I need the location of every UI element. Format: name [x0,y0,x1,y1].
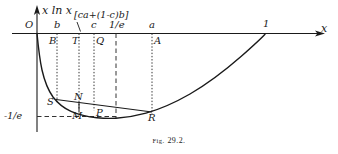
x-tick-label-c: c [91,20,97,30]
x-tick-label-one-over-e: 1/e [109,20,125,30]
caption-prefix: Fig. [153,137,165,144]
foot-label-b: B [49,36,56,46]
curve-x-log-x [37,34,265,119]
x-tick-label-one: 1 [263,19,269,29]
point-label-n: N [74,92,83,102]
caption-number: 29.2. [167,136,185,145]
y-tick-label-minus-one-over-e: -1/e [4,111,22,121]
y-axis-label: x ln x [42,5,72,16]
point-label-s: S [47,97,54,107]
point-label-p: P [96,108,103,118]
x-axis-label: x [321,23,327,34]
chord-line-sr [56,100,152,113]
foot-label-q: Q [96,36,104,46]
figure-canvas [0,0,338,154]
origin-label: O [25,20,33,30]
x-tick-label-b: b [54,20,60,30]
figure-caption: Fig.29.2. [0,136,338,145]
foot-label-a: A [154,36,161,46]
point-label-r: R [148,113,156,123]
annotation-pointer-line [77,22,81,32]
foot-label-t: T [72,36,79,46]
x-tick-label-a: a [149,20,155,30]
figure-x-log-x: x ln x x O [ca+(1-c)b] b c 1/e a 1 B T Q… [0,0,338,154]
point-label-m: M [72,111,82,121]
